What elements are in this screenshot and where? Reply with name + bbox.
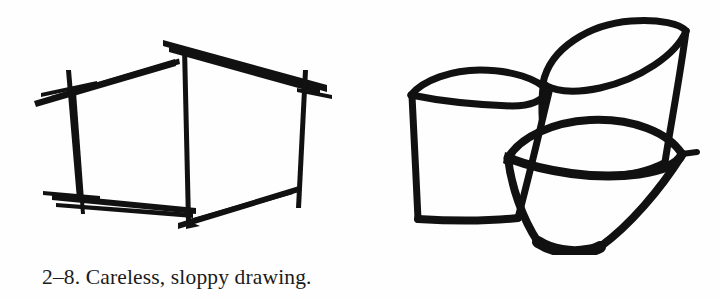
box-edge-bottom-right (178, 186, 299, 229)
box-edge-center-vertical (182, 48, 191, 222)
cup-back-rim-upper-arc (543, 21, 686, 83)
figure-page: 2–8. Careless, sloppy drawing. (0, 0, 721, 299)
cup-front (503, 120, 697, 252)
cup-left (411, 70, 549, 220)
sloppy-box-sketch (34, 40, 332, 229)
cup-left-rim-upper-arc (411, 70, 548, 95)
sloppy-cups-sketch (411, 21, 697, 253)
cup-left-left-wall (412, 96, 418, 219)
cup-back-rim-lower-arc (543, 31, 686, 91)
cup-left-bottom (418, 218, 518, 220)
cup-left-rim-lower-arc (411, 91, 548, 106)
cup-left-right-wall (518, 92, 549, 218)
cup-back-upper-right (541, 21, 686, 176)
figure-caption: 2–8. Careless, sloppy drawing. (42, 262, 642, 294)
figure-illustration (0, 0, 721, 255)
box-edge-top-left (34, 59, 180, 108)
figure-svg-canvas (0, 0, 721, 255)
cup-front-bottom (538, 242, 600, 252)
